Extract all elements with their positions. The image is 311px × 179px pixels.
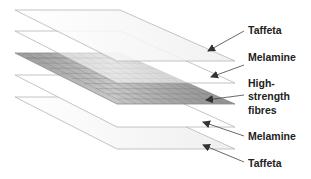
arrow-melamine-upper xyxy=(211,65,244,77)
arrow-taffeta-top xyxy=(208,31,244,51)
label-fibres-line3: fibres xyxy=(248,104,277,117)
label-taffeta-bottom: Taffeta xyxy=(248,157,282,170)
label-melamine-lower: Melamine xyxy=(248,130,296,143)
label-fibres-line2: strength xyxy=(248,90,290,103)
label-fibres-line1: High- xyxy=(248,77,275,90)
label-taffeta-top: Taffeta xyxy=(248,24,282,37)
label-melamine-upper: Melamine xyxy=(248,51,296,64)
